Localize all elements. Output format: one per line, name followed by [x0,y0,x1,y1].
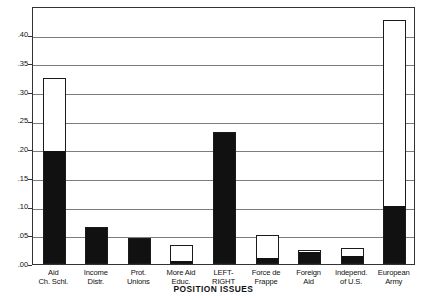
y-axis-tick-mark [28,64,32,65]
bar [213,132,236,264]
y-axis-tick-label: .10 [2,203,28,211]
bar-slot [161,6,204,264]
y-axis-tick-mark [28,93,32,94]
y-axis-tick-label: .40 [2,31,28,39]
x-axis-tick-label-line1: Foreign [296,268,321,277]
y-axis-tick-label: .05 [2,232,28,240]
bar-slot [373,6,416,264]
bar-segment-filled [129,239,150,263]
bar-slot [203,6,246,264]
bar-slot [246,6,289,264]
bar-segment-filled [214,133,235,263]
bar-slot [331,6,374,264]
y-axis-tick-mark [28,236,32,237]
bar-segment-filled [257,258,278,263]
bar-segment-filled [342,256,363,263]
x-axis-tick-label-line1: Aid [48,268,59,277]
bar-segment-filled [299,252,320,263]
bar-slot [76,6,119,264]
plot-area [32,7,415,265]
x-axis-tick-label-line1: European [378,268,410,277]
x-axis-title: POSITION ISSUES [0,284,427,294]
x-axis-tick-label-line1: Independ. [335,268,367,277]
x-axis-tick-label-line1: Prot. [131,268,146,277]
y-axis-tick-label: .25 [2,117,28,125]
bar-segment-filled [384,206,405,263]
bar-slot [33,6,76,264]
y-axis-tick-label: .35 [2,60,28,68]
y-axis-tick-label: .30 [2,89,28,97]
bar-slot [288,6,331,264]
x-axis-tick-label-line1: LEFT- [214,268,234,277]
x-axis-tick-label-line1: Force de [252,268,281,277]
bar-slot [118,6,161,264]
y-axis-tick-mark [28,36,32,37]
y-axis-tick-mark [28,122,32,123]
bar [341,248,364,264]
bar [298,250,321,264]
bar-segment-filled [171,261,192,263]
y-axis-tick-label: .15 [2,175,28,183]
bar-chart: .00.05.10.15.20.25.30.35.40 AidCh. Schl.… [0,0,427,300]
y-axis-tick-mark [28,208,32,209]
bar [128,238,151,264]
x-axis-tick-label-line1: More Aid [167,268,196,277]
bar [43,78,66,264]
bar [85,227,108,264]
x-axis-tick-label-line1: Income [84,268,108,277]
bar-segment-filled [44,151,65,263]
bar [170,245,193,264]
y-axis-tick-mark [28,179,32,180]
y-axis-tick-label: .20 [2,146,28,154]
y-axis-tick-mark [28,265,32,266]
bar-segment-filled [86,228,107,263]
y-axis-tick-mark [28,150,32,151]
bar [383,20,406,264]
bar [256,235,279,264]
y-axis-tick-label: .00 [2,261,28,269]
